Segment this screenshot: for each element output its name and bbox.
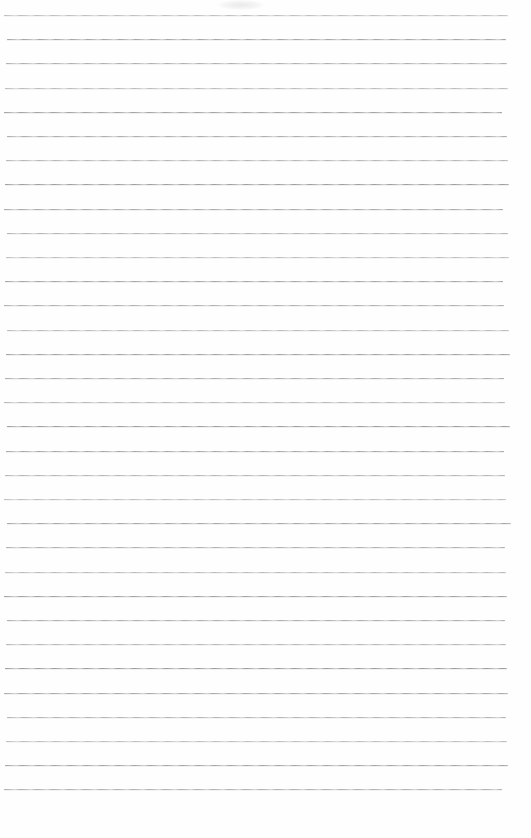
- ruled-line: [6, 160, 508, 161]
- ruled-line: [4, 499, 506, 500]
- ruled-line: [7, 426, 510, 427]
- ruled-line: [7, 523, 511, 524]
- ruled-line: [4, 15, 508, 16]
- ruled-line: [5, 88, 508, 89]
- ruled-line: [5, 765, 508, 766]
- ruled-line: [6, 547, 505, 548]
- ruled-line: [6, 257, 509, 258]
- ruled-line: [5, 668, 507, 669]
- ruled-line: [4, 693, 508, 694]
- ruled-line: [7, 136, 507, 137]
- ruled-line: [6, 451, 504, 452]
- ruled-line: [7, 620, 505, 621]
- ruled-line: [4, 209, 503, 210]
- ruled-line: [5, 184, 509, 185]
- ruled-line: [7, 233, 508, 234]
- ruled-line: [4, 112, 502, 113]
- ruled-line: [7, 39, 506, 40]
- ruled-line: [4, 789, 502, 790]
- ruled-line: [4, 305, 504, 306]
- ruled-line: [5, 378, 504, 379]
- ruled-line: [5, 281, 503, 282]
- ruled-line: [6, 644, 506, 645]
- ruled-line: [7, 330, 509, 331]
- ruled-paper-page: [0, 0, 531, 838]
- ruled-line: [6, 741, 507, 742]
- ruled-line: [6, 63, 507, 64]
- ruled-line: [5, 572, 506, 573]
- ruled-line: [5, 475, 505, 476]
- ruled-line: [7, 717, 506, 718]
- ruled-line: [4, 596, 507, 597]
- scan-smudge: [218, 0, 264, 10]
- ruled-line: [6, 354, 510, 355]
- ruled-line: [4, 402, 505, 403]
